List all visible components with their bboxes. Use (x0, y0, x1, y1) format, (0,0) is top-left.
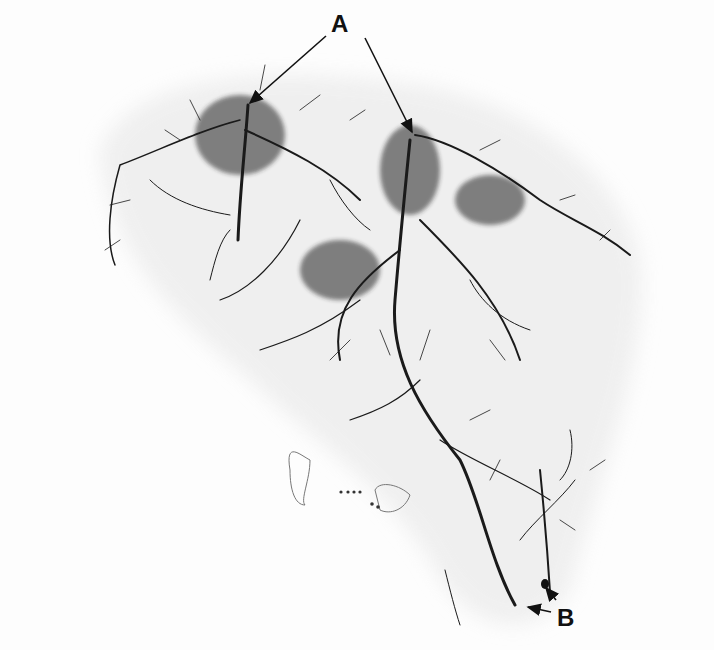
soma-b (541, 579, 549, 589)
micrograph-image (0, 0, 714, 650)
puncta (339, 490, 379, 508)
label-a: A (331, 10, 348, 38)
tissue-haze (100, 75, 641, 625)
label-b: B (557, 604, 574, 632)
micrograph-figure: A B (0, 0, 714, 650)
